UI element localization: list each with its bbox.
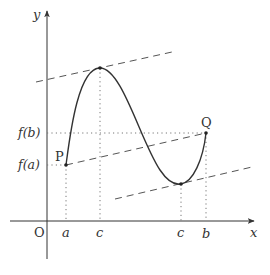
tick-label-b: b [202, 226, 210, 241]
point-max-tangency [98, 66, 102, 70]
point-q-label: Q [201, 115, 212, 130]
point-p-label: P [55, 149, 64, 164]
origin-label: O [34, 225, 45, 240]
dotted-guides [47, 68, 206, 221]
y-axis-label: y [32, 7, 41, 22]
x-axis-label: x [250, 225, 258, 240]
tick-label-c2: c [177, 225, 185, 240]
tick-label-fa: f(a) [17, 157, 40, 172]
tick-label-c1: c [96, 225, 104, 240]
point-min-tangency [179, 182, 183, 186]
tick-label-fb: f(b) [17, 125, 41, 140]
tick-label-a: a [62, 225, 70, 240]
function-curve [66, 68, 206, 184]
mean-value-theorem-diagram: y x O a c c b f(b) f(a) P Q [0, 0, 270, 275]
tangent-line-upper [36, 52, 172, 82]
secant-line-pq [66, 133, 206, 165]
point-q [204, 131, 208, 135]
point-p [64, 163, 68, 167]
dashed-lines [36, 52, 252, 199]
